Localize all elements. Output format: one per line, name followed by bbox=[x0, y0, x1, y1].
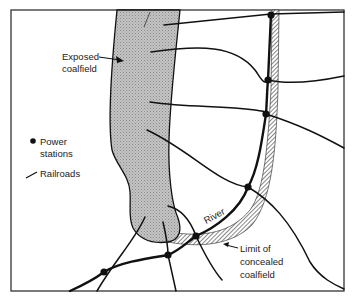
power-station bbox=[262, 110, 269, 117]
power-station bbox=[192, 232, 199, 239]
legend-railroads-label: Railroads bbox=[40, 168, 80, 179]
power-station bbox=[100, 268, 107, 275]
coalfield-map: Exposed coalfield River Limit of conceal… bbox=[0, 0, 352, 300]
power-station bbox=[267, 11, 274, 18]
power-station bbox=[244, 183, 251, 190]
dot-icon bbox=[30, 138, 36, 144]
power-station bbox=[164, 251, 171, 258]
power-station bbox=[264, 76, 271, 83]
exposed-coalfield-label: Exposed coalfield bbox=[62, 51, 102, 74]
legend-power-stations-label: Power stations bbox=[40, 136, 73, 159]
